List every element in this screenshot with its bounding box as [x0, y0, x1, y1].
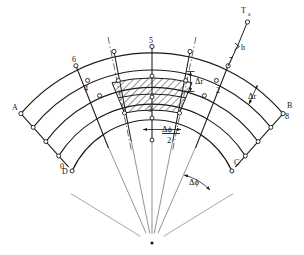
diagram-canvas: 0 2 3 4 5 6 7 8 A B C D Δr Δr Δϕ 2 Δϕ T … — [0, 0, 304, 255]
delta-phi-half-denominator: 2 — [167, 135, 171, 145]
ambient-temperature-subscript: a — [248, 11, 251, 17]
boundary-label-b: B — [287, 101, 292, 110]
origin-dot — [150, 241, 153, 244]
boundary-label-d: D — [62, 167, 68, 176]
boundary-label-c: C — [234, 158, 239, 167]
node-label-3: 3 — [148, 105, 152, 114]
polar-grid-figure: 0 2 3 4 5 6 7 8 A B C D Δr Δr Δϕ 2 Δϕ T … — [0, 0, 304, 255]
delta-phi-half-numerator: Δϕ — [162, 124, 172, 134]
boundary-label-a: A — [12, 103, 18, 112]
ambient-temperature-label: T — [241, 6, 246, 15]
convection-coefficient-label: h — [241, 43, 245, 52]
node-label-4: 4 — [84, 84, 88, 93]
ambient-node-marker — [245, 20, 249, 24]
node-label-8: 8 — [285, 112, 289, 121]
delta-r-inner-label: Δr — [195, 76, 203, 86]
delta-phi-label: Δϕ — [189, 177, 199, 187]
radial-spokes-inner — [109, 140, 196, 234]
node-label-6: 6 — [72, 55, 76, 64]
delta-r-outer-label: Δr — [248, 91, 256, 101]
node-label-5: 5 — [149, 36, 153, 45]
node-label-2: 2 — [216, 86, 220, 95]
node-label-7: 7 — [229, 56, 233, 65]
